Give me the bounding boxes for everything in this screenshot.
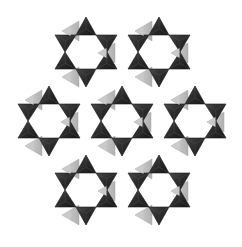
ring-middle-right (164, 86, 226, 156)
light-tetrahedron-tip (61, 117, 70, 127)
light-tetrahedron-tip (134, 117, 143, 127)
light-tetrahedron-tip (62, 26, 71, 36)
ring-middle-left (18, 86, 80, 156)
ring-top-right (128, 17, 190, 87)
light-tetrahedron-tip (171, 186, 180, 196)
light-tetrahedron-tip (135, 210, 144, 220)
light-tetrahedron-tip (135, 26, 144, 36)
light-tetrahedron-tip (25, 141, 34, 151)
light-tetrahedron-tip (207, 117, 216, 127)
ring-middle-center (91, 86, 153, 156)
light-tetrahedron-tip (62, 164, 71, 174)
rings-group (18, 17, 226, 225)
light-tetrahedron-tip (98, 48, 107, 58)
light-tetrahedron-tip (171, 95, 180, 105)
light-tetrahedron-tip (171, 48, 180, 58)
light-tetrahedron-tip (135, 164, 144, 174)
light-tetrahedron-tip (98, 95, 107, 105)
ring-bottom-right (128, 155, 190, 225)
light-tetrahedron-tip (98, 186, 107, 196)
framework-diagram (0, 0, 242, 247)
light-tetrahedron-tip (98, 141, 107, 151)
ring-top-left (55, 17, 117, 87)
light-tetrahedron-tip (171, 141, 180, 151)
light-tetrahedron-tip (62, 210, 71, 220)
ring-lattice-canvas (0, 0, 242, 247)
light-tetrahedron-tip (62, 72, 71, 82)
light-tetrahedron-tip (25, 95, 34, 105)
light-tetrahedron-tip (135, 72, 144, 82)
ring-bottom-left (55, 155, 117, 225)
